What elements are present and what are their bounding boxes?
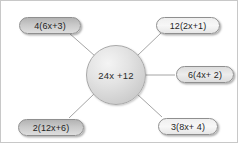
node-top-right[interactable]: 12(2x+1) — [156, 17, 220, 34]
edge-center-to-top-right — [137, 33, 161, 56]
node-bottom-left[interactable]: 2(12x+6) — [18, 119, 84, 136]
node-top-right-label: 12(2x+1) — [170, 21, 207, 31]
edge-center-to-bottom-right — [137, 94, 162, 117]
diagram-canvas: 24x +12 4(6x+3) 12(2x+1) 6(4x+ 2) 3(8x+ … — [0, 0, 238, 143]
node-top-left[interactable]: 4(6x+3) — [19, 17, 81, 34]
edge-center-to-bottom-left — [69, 94, 94, 118]
center-node-label: 24x +12 — [98, 70, 133, 81]
node-right[interactable]: 6(4x+ 2) — [176, 66, 234, 83]
node-top-left-label: 4(6x+3) — [34, 21, 65, 31]
edge-center-to-top-left — [69, 33, 95, 56]
node-right-label: 6(4x+ 2) — [188, 70, 222, 80]
node-bottom-right-label: 3(8x+ 4) — [171, 122, 205, 132]
center-node[interactable]: 24x +12 — [86, 45, 146, 105]
node-bottom-left-label: 2(12x+6) — [33, 123, 70, 133]
node-bottom-right[interactable]: 3(8x+ 4) — [158, 118, 218, 135]
